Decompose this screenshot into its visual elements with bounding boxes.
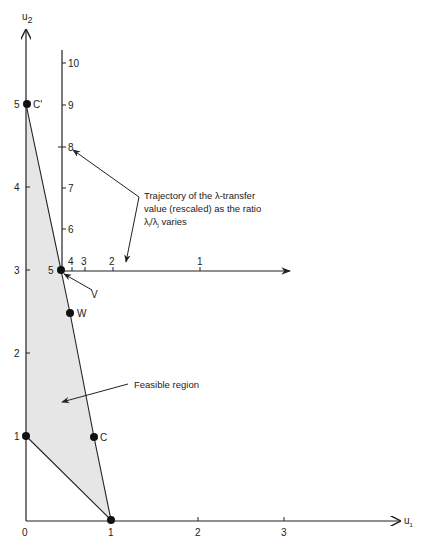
point-c-prime — [23, 100, 31, 108]
secondary-horizontal-ticks: 4 3 2 1 — [68, 256, 203, 271]
sh-tick-3: 3 — [81, 256, 87, 267]
u2-tick-3: 3 — [14, 265, 20, 276]
sv-tick-9: 9 — [68, 100, 74, 111]
sh-tick-2: 2 — [109, 256, 115, 267]
u2-axis-label: u2 — [22, 11, 33, 25]
point-1-0 — [107, 516, 115, 524]
sh-tick-4: 4 — [68, 256, 74, 267]
u1-tick-3: 3 — [281, 527, 287, 538]
secondary-origin-label: 5 — [48, 265, 54, 276]
u1-tick-1: 1 — [108, 527, 114, 538]
svg-text:λi/λj varies: λi/λj varies — [144, 216, 187, 228]
sv-tick-6: 6 — [68, 224, 74, 235]
trajectory-pointer-upper — [73, 150, 139, 197]
point-w — [66, 309, 74, 317]
sv-tick-8: 8 — [68, 142, 74, 153]
point-v — [57, 266, 65, 274]
u1-ticks: 0 1 2 3 — [22, 517, 287, 538]
point-c — [90, 433, 98, 441]
u1-axis-label: u1 — [404, 515, 414, 528]
label-v: V — [91, 289, 98, 300]
secondary-vertical-ticks: 6 7 8 9 10 — [58, 58, 80, 235]
u1-tick-2: 2 — [195, 527, 201, 538]
u2-tick-1: 1 — [14, 431, 20, 442]
trajectory-pointer-lower — [126, 197, 139, 262]
sv-tick-10: 10 — [68, 58, 80, 69]
u2-tick-2: 2 — [14, 348, 20, 359]
label-c: C — [100, 432, 107, 443]
sv-tick-7: 7 — [68, 183, 74, 194]
u2-tick-4: 4 — [14, 182, 20, 193]
label-c-prime: C' — [33, 99, 42, 110]
v-pointer — [64, 274, 92, 290]
trajectory-note: Trajectory of the λ-transfer value (resc… — [144, 190, 261, 228]
point-0-1 — [22, 432, 30, 440]
feasible-region-diagram: u2 u1 0 1 2 3 1 2 3 4 5 6 7 8 9 10 — [0, 0, 431, 548]
label-w: W — [77, 308, 87, 319]
feasible-region-label: Feasible region — [134, 379, 199, 390]
svg-text:value (rescaled) as the ratio: value (rescaled) as the ratio — [144, 203, 261, 214]
u1-tick-0: 0 — [22, 527, 28, 538]
u2-tick-5: 5 — [14, 99, 20, 110]
svg-text:Trajectory of the λ-transfer: Trajectory of the λ-transfer — [144, 190, 255, 201]
sh-tick-1: 1 — [197, 256, 203, 267]
